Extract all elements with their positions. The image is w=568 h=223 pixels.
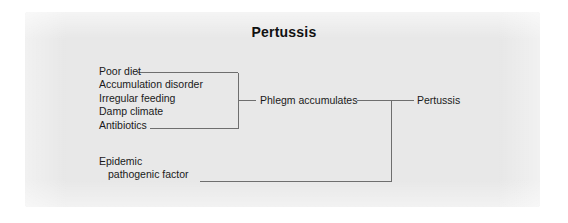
cause-item-accumulation-disorder: Accumulation disorder xyxy=(99,78,203,91)
cause-item-antibiotics: Antibiotics xyxy=(99,119,203,132)
cause-item-irregular-feeding: Irregular feeding xyxy=(99,92,203,105)
epidemic-pathogenic-factor-node: Epidemic pathogenic factor xyxy=(99,155,189,182)
cause-item-damp-climate: Damp climate xyxy=(99,105,203,118)
page-title: Pertussis xyxy=(0,24,568,40)
pertussis-diagram-figure: Pertussis Poor diet Accumulation disorde… xyxy=(0,0,568,223)
phlegm-accumulates-node: Phlegm accumulates xyxy=(260,94,357,107)
pertussis-outcome-node: Pertussis xyxy=(417,94,460,107)
cause-item-poor-diet: Poor diet xyxy=(99,65,203,78)
epidemic-label-line2: pathogenic factor xyxy=(99,168,189,181)
epidemic-label-line1: Epidemic xyxy=(99,155,189,168)
cause-list: Poor diet Accumulation disorder Irregula… xyxy=(99,65,203,132)
